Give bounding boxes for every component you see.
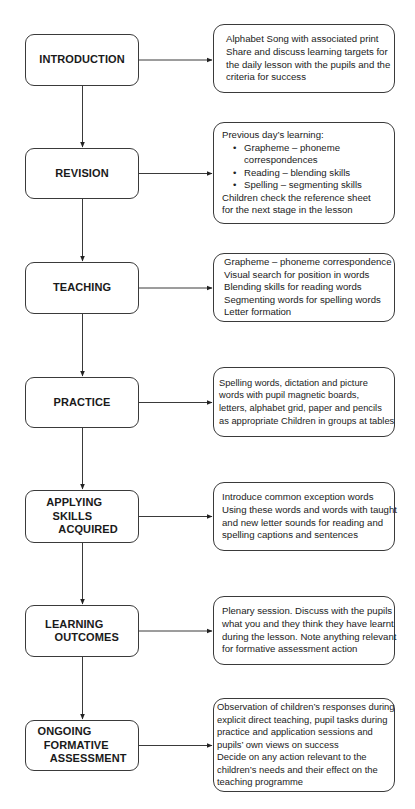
description-line: Visual search for position in words xyxy=(224,269,391,282)
stage-label: TEACHING xyxy=(53,281,111,295)
description-box-applying-skills-acquired: Introduce common exception words Using t… xyxy=(213,482,395,551)
description-line: practice and application sessions and xyxy=(217,726,395,739)
description-text: Plenary session. Discuss with the pupils… xyxy=(222,605,396,655)
description-line: what you and they think they have learnt xyxy=(222,618,396,631)
description-text: Alphabet Song with associated print Shar… xyxy=(226,33,390,83)
description-box-teaching: Grapheme – phoneme correspondence Visual… xyxy=(213,253,395,322)
stage-box-practice: PRACTICE xyxy=(25,377,139,428)
stage-label: APPLYING SKILLS ACQUIRED xyxy=(46,496,118,537)
description-line: Spelling words, dictation and picture xyxy=(219,377,394,390)
description-line: Observation of children’s responses duri… xyxy=(217,701,395,714)
description-line: Alphabet Song with associated print xyxy=(226,33,390,46)
description-line: the daily lesson with the pupils and the xyxy=(226,59,390,72)
stage-box-revision: REVISION xyxy=(25,148,139,199)
description-line: Children check the reference sheet xyxy=(222,192,371,205)
description-text: Observation of children’s responses duri… xyxy=(217,701,395,789)
bullet-item: Spelling – segmenting skills xyxy=(244,179,371,192)
description-line: during the lesson. Note anything relevan… xyxy=(222,631,396,644)
description-line: teaching programme xyxy=(217,776,395,789)
description-line: children’s needs and their effect on the xyxy=(217,764,395,777)
description-box-practice: Spelling words, dictation and picture wo… xyxy=(213,367,395,437)
description-line: Introduce common exception words xyxy=(222,491,397,504)
stage-label: PRACTICE xyxy=(53,396,110,410)
description-line: Letter formation xyxy=(224,306,391,319)
description-text: Previous day’s learning: Grapheme – phon… xyxy=(222,129,371,217)
description-text: Introduce common exception words Using t… xyxy=(222,491,397,541)
description-line: as appropriate Children in groups at tab… xyxy=(219,415,394,428)
description-box-ongoing-formative-assessment: Observation of children’s responses duri… xyxy=(213,698,395,792)
description-line: explicit direct teaching, pupil tasks du… xyxy=(217,714,395,727)
description-box-introduction: Alphabet Song with associated print Shar… xyxy=(213,24,395,93)
description-text: Spelling words, dictation and picture wo… xyxy=(219,377,394,427)
description-line: pupils’ own views on success xyxy=(217,739,395,752)
stage-label: REVISION xyxy=(55,167,108,181)
description-line: spelling captions and sentences xyxy=(222,529,397,542)
bullet-item: Reading – blending skills xyxy=(244,167,371,180)
stage-box-introduction: INTRODUCTION xyxy=(25,34,139,86)
description-intro: Previous day’s learning: xyxy=(222,129,371,142)
description-line: letters, alphabet grid, paper and pencil… xyxy=(219,402,394,415)
stage-label: INTRODUCTION xyxy=(39,53,125,67)
description-box-revision: Previous day’s learning: Grapheme – phon… xyxy=(213,122,395,224)
bullet-list: Grapheme – phoneme correspondences Readi… xyxy=(222,142,371,192)
description-line: words with pupil magnetic boards, xyxy=(219,389,394,402)
description-line: for the next stage in the lesson xyxy=(222,204,371,217)
stage-box-ongoing-formative-assessment: ONGOING FORMATIVE ASSESSMENT xyxy=(25,720,139,771)
stage-label: ONGOING FORMATIVE ASSESSMENT xyxy=(37,725,126,766)
stage-label: LEARNING OUTCOMES xyxy=(45,618,119,645)
stage-box-teaching: TEACHING xyxy=(25,262,139,314)
description-line: Using these words and words with taught xyxy=(222,504,397,517)
stage-box-applying-skills-acquired: APPLYING SKILLS ACQUIRED xyxy=(25,490,139,543)
description-box-learning-outcomes: Plenary session. Discuss with the pupils… xyxy=(213,596,395,665)
bullet-item: Grapheme – phoneme correspondences xyxy=(244,142,344,167)
description-line: Plenary session. Discuss with the pupils xyxy=(222,605,396,618)
stage-box-learning-outcomes: LEARNING OUTCOMES xyxy=(25,605,139,657)
description-text: Grapheme – phoneme correspondence Visual… xyxy=(224,256,391,319)
description-line: and new letter sounds for reading and xyxy=(222,517,397,530)
description-line: Grapheme – phoneme correspondence xyxy=(224,256,391,269)
description-line: for formative assessment action xyxy=(222,643,396,656)
description-line: Segmenting words for spelling words xyxy=(224,294,391,307)
description-line: Share and discuss learning targets for xyxy=(226,46,390,59)
description-line: Blending skills for reading words xyxy=(224,281,391,294)
description-line: Decide on any action relevant to the xyxy=(217,751,395,764)
description-line: criteria for success xyxy=(226,71,390,84)
